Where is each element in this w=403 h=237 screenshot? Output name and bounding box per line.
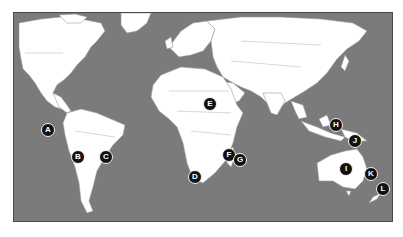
world-map [13,12,393,222]
map-marker-l: L [376,182,390,196]
map-marker-d: D [188,170,202,184]
map-marker-e: E [203,97,217,111]
map-marker-j: J [348,134,362,148]
map-marker-c: C [99,150,113,164]
map-marker-a: A [41,123,55,137]
map-marker-i: I [339,162,353,176]
map-marker-k: K [364,167,378,181]
map-marker-g: G [233,153,247,167]
map-marker-h: H [329,118,343,132]
map-marker-b: B [71,150,85,164]
